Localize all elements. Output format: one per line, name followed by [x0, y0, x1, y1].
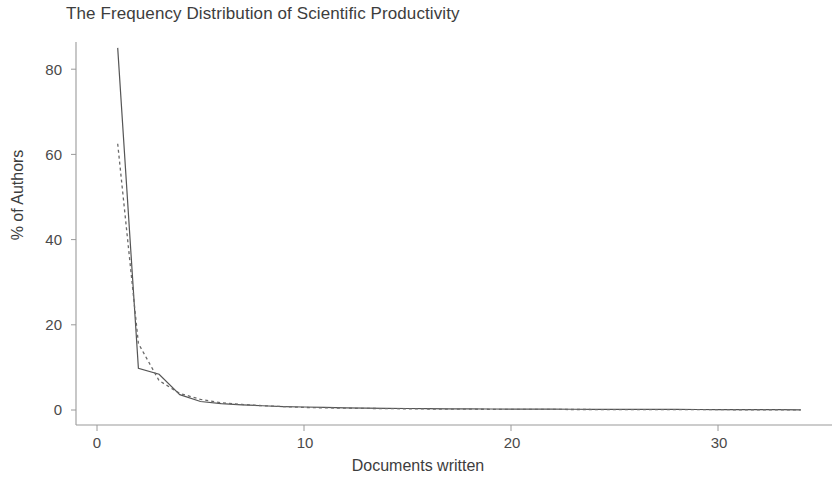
chart-title: The Frequency Distribution of Scientific… — [66, 4, 460, 24]
x-tick-label-20: 20 — [492, 434, 532, 451]
x-tick-label-0: 0 — [77, 434, 117, 451]
x-tick-label-10: 10 — [285, 434, 325, 451]
y-tick-label-40: 40 — [22, 231, 62, 248]
data-line-expected — [118, 144, 801, 410]
y-axis-label: % of Authors — [9, 95, 27, 295]
x-axis-label: Documents written — [0, 457, 836, 475]
y-tick-label-20: 20 — [22, 316, 62, 333]
y-tick-label-0: 0 — [22, 401, 62, 418]
axis-lines — [76, 42, 832, 425]
tick-marks — [71, 69, 718, 431]
chart-figure: The Frequency Distribution of Scientific… — [0, 0, 836, 482]
data-line-observed — [118, 48, 801, 410]
y-tick-label-80: 80 — [22, 61, 62, 78]
plot-area — [0, 0, 836, 482]
x-tick-label-30: 30 — [699, 434, 739, 451]
y-tick-label-60: 60 — [22, 146, 62, 163]
